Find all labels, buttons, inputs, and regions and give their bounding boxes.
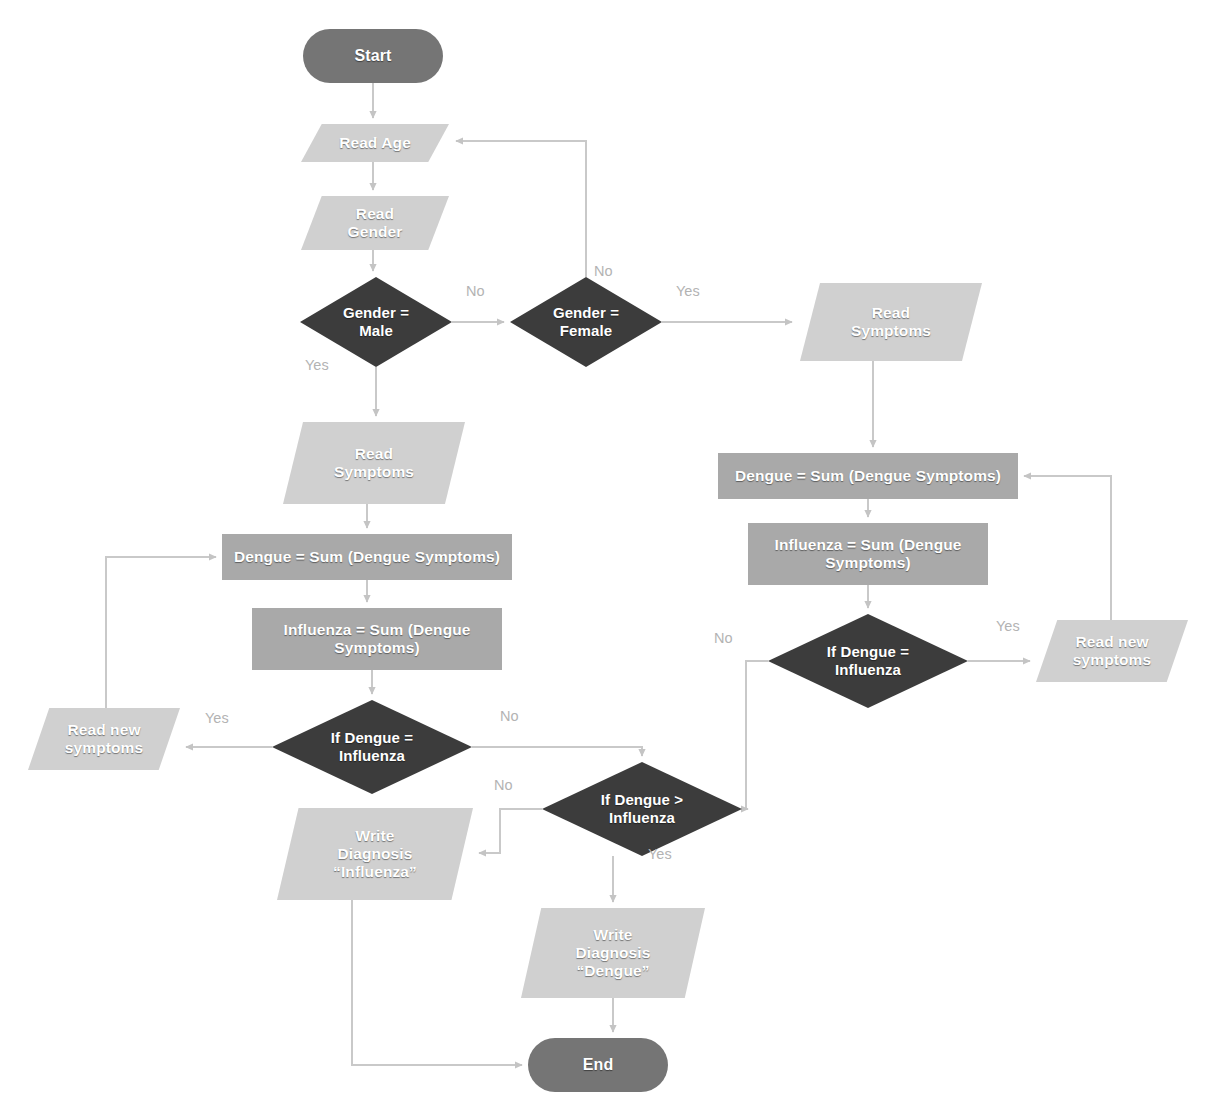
node-label-influ_sum_r: Influenza = Sum (Dengue Symptoms) <box>768 536 967 573</box>
node-label-dengue_sum_r: Dengue = Sum (Dengue Symptoms) <box>729 467 1007 485</box>
node-dec_eq_l[interactable]: If Dengue = Influenza <box>272 700 472 794</box>
node-dengue_sum_r[interactable]: Dengue = Sum (Dengue Symptoms) <box>718 453 1018 499</box>
node-label-gender_female: Gender = Female <box>547 304 625 339</box>
node-label-read_new_l: Read new symptoms <box>59 721 149 758</box>
edge-decision-eq-no-decision-gt-left <box>472 747 642 756</box>
node-write_dengue[interactable]: Write Diagnosis “Dengue” <box>521 908 705 998</box>
edge-decision-gt-no-write-influenza <box>479 809 542 853</box>
edge-label-lbl-gt-yes: Yes <box>648 846 672 862</box>
edge-label-lbl-female-no: No <box>594 263 613 279</box>
edge-label-lbl-eql-yes: Yes <box>205 710 229 726</box>
node-label-dengue_sum_l: Dengue = Sum (Dengue Symptoms) <box>228 548 506 566</box>
node-dec_eq_r[interactable]: If Dengue = Influenza <box>768 614 968 708</box>
node-label-gender_male: Gender = Male <box>337 304 415 339</box>
node-influ_sum_r[interactable]: Influenza = Sum (Dengue Symptoms) <box>748 523 988 585</box>
node-gender_male[interactable]: Gender = Male <box>300 277 452 367</box>
node-dec_gt[interactable]: If Dengue > Influenza <box>542 762 742 856</box>
edge-gender-female-no-read-age <box>456 141 586 277</box>
node-label-influ_sum_l: Influenza = Sum (Dengue Symptoms) <box>277 621 476 658</box>
edge-decision-eq-no-decision-gt-right <box>746 661 768 809</box>
edge-label-lbl-male-no: No <box>466 283 485 299</box>
edge-label-lbl-eqr-yes: Yes <box>996 618 1020 634</box>
edge-label-lbl-gt-no: No <box>494 777 513 793</box>
node-read_age[interactable]: Read Age <box>301 124 449 162</box>
node-label-read_age: Read Age <box>333 134 417 152</box>
edge-label-lbl-eqr-no: No <box>714 630 733 646</box>
node-dengue_sum_l[interactable]: Dengue = Sum (Dengue Symptoms) <box>222 534 512 580</box>
node-read_new_l[interactable]: Read new symptoms <box>28 708 180 770</box>
node-label-dec_gt: If Dengue > Influenza <box>595 791 689 826</box>
edge-read-new-right-dengue-sum-right <box>1024 476 1111 620</box>
edge-label-lbl-male-yes: Yes <box>305 357 329 373</box>
flowchart-canvas: StartRead AgeRead GenderGender = MaleGen… <box>0 0 1219 1113</box>
node-label-dec_eq_r: If Dengue = Influenza <box>821 643 915 678</box>
node-end[interactable]: End <box>528 1038 668 1092</box>
node-label-read_gender: Read Gender <box>342 205 409 242</box>
node-label-read_new_r: Read new symptoms <box>1067 633 1157 670</box>
node-read_new_r[interactable]: Read new symptoms <box>1036 620 1188 682</box>
edge-label-lbl-eql-no: No <box>500 708 519 724</box>
node-start[interactable]: Start <box>303 29 443 83</box>
node-gender_female[interactable]: Gender = Female <box>510 277 662 367</box>
node-label-write_influ: Write Diagnosis “Influenza” <box>327 827 423 882</box>
node-label-write_dengue: Write Diagnosis “Dengue” <box>570 926 657 981</box>
node-read_sym_l[interactable]: Read Symptoms <box>283 422 465 504</box>
edge-read-new-left-dengue-sum-left <box>106 557 216 708</box>
edge-write-influenza-end <box>352 900 522 1065</box>
node-read_gender[interactable]: Read Gender <box>301 196 449 250</box>
node-influ_sum_l[interactable]: Influenza = Sum (Dengue Symptoms) <box>252 608 502 670</box>
node-label-end: End <box>577 1056 620 1075</box>
node-read_sym_r[interactable]: Read Symptoms <box>800 283 982 361</box>
node-label-read_sym_r: Read Symptoms <box>845 304 937 341</box>
node-label-dec_eq_l: If Dengue = Influenza <box>325 729 419 764</box>
edge-label-lbl-female-yes: Yes <box>676 283 700 299</box>
node-label-read_sym_l: Read Symptoms <box>328 445 420 482</box>
node-write_influ[interactable]: Write Diagnosis “Influenza” <box>277 808 473 900</box>
node-label-start: Start <box>349 47 398 66</box>
